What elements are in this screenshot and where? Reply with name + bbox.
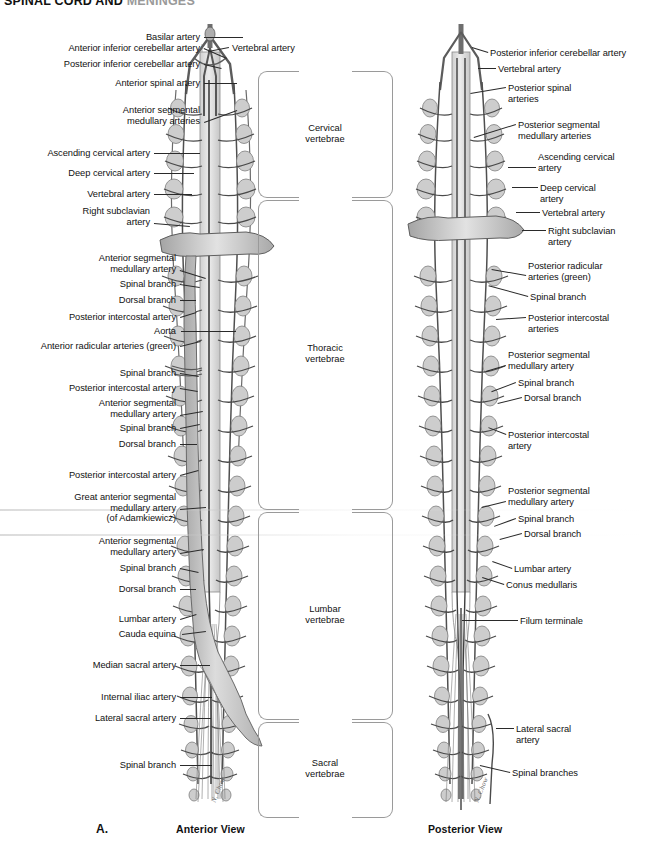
region-label-sacral: Sacral vertebrae [298,758,352,780]
label-anterior-inferior-cerebellar-artery: Anterior inferior cerebellar artery [30,43,200,54]
bracket-right-thoracic [352,200,393,510]
label-vertebral-artery-p: Vertebral artery [542,208,640,219]
label-posterior-segmental-medullary-artery-t1: Posterior segmental medullary artery [508,350,618,371]
leader-line-vertebral-artery-p [516,212,540,213]
label-lateral-sacral-artery-p: Lateral sacral artery [516,724,602,745]
label-deep-cervical-artery-p: Deep cervical artery [540,183,630,204]
region-label-lumbar: Lumbar vertebrae [298,604,352,626]
leader-line-ascending-cervical-artery [154,153,200,154]
label-anterior-segmental-medullary-artery-t2: Anterior segmental medullary artery [58,398,176,419]
label-ascending-cervical-artery-p: Ascending cervical artery [538,152,638,173]
label-deep-cervical-artery: Deep cervical artery [38,168,150,179]
leader-line-median-sacral-artery [180,665,210,666]
leader-line-aorta [181,331,236,332]
label-spinal-branch-l1: Spinal branch [90,563,176,574]
label-posterior-spinal-arteries: Posterior spinal arteries [508,83,598,104]
label-dorsal-branch-p1: Dorsal branch [524,393,612,404]
label-cauda-equina: Cauda equina [88,629,176,640]
label-anterior-segmental-medullary-artery-t1: Anterior segmental medullary artery [58,253,176,274]
label-dorsal-branch-t2: Dorsal branch [86,439,176,450]
posterior-view-caption: Posterior View [428,823,502,835]
label-posterior-intercostal-artery-p: Posterior intercostal artery [508,430,614,451]
label-spinal-branch-t2: Spinal branch [90,368,176,379]
figure-page: SPINAL CORD AND MENINGES [0,0,646,857]
label-dorsal-branch-p2: Dorsal branch [524,529,612,540]
label-posterior-radicular-arteries: Posterior radicular arteries (green) [528,261,632,282]
label-aorta: Aorta [120,326,176,337]
label-posterior-intercostal-artery-t1: Posterior intercostal artery [40,312,176,323]
label-lumbar-artery-p: Lumbar artery [514,564,602,575]
label-posterior-inferior-cerebellar-artery-p: Posterior inferior cerebellar artery [490,48,646,59]
leader-line-vertebral-artery-cervical [154,194,192,195]
anterior-view-caption: Anterior View [176,823,245,835]
label-posterior-segmental-medullary-arteries: Posterior segmental medullary arteries [518,120,626,141]
label-filum-terminale: Filum terminale [520,616,614,627]
label-spinal-branch-sacral: Spinal branch [90,760,176,771]
label-vertebral-artery-top: Vertebral artery [232,43,322,54]
bracket-right-lumbar [352,512,393,720]
bracket-right-sacral [352,722,393,818]
label-lateral-sacral-artery: Lateral sacral artery [68,713,176,724]
label-posterior-intercostal-artery-t2: Posterior intercostal artery [40,383,176,394]
leader-line-filum-terminale [462,620,518,621]
bracket-left-thoracic [258,200,299,510]
bracket-left-cervical [258,71,299,198]
label-basilar-artery: Basilar artery [70,32,200,43]
figure-letter: A. [96,822,108,836]
leader-line-deep-cervical-artery-p [512,187,538,188]
label-great-anterior-segmental-medullary-artery: Great anterior segmental medullary arter… [52,492,176,524]
running-head: SPINAL CORD AND MENINGES [4,0,195,6]
label-vertebral-artery-p-top: Vertebral artery [498,64,598,75]
label-median-sacral-artery: Median sacral artery [68,660,176,671]
region-label-thoracic: Thoracic vertebrae [298,343,352,365]
leader-line-dorsal-branch-l1 [180,589,196,590]
label-posterior-segmental-medullary-artery-l1: Posterior segmental medullary artery [508,486,618,507]
label-dorsal-branch-l1: Dorsal branch [86,584,176,595]
label-internal-iliac-artery: Internal iliac artery [72,692,176,703]
label-conus-medullaris: Conus medullaris [506,580,604,591]
leader-line-right-subclavian-artery-p [522,230,546,231]
running-head-bold: SPINAL CORD AND [4,0,127,6]
label-spinal-branch-p1: Spinal branch [530,292,616,303]
label-posterior-inferior-cerebellar-artery: Posterior inferior cerebellar artery [22,59,200,70]
leader-line-dorsal-branch-t2 [180,444,197,445]
label-ascending-cervical-artery: Ascending cervical artery [20,148,150,159]
leader-line-deep-cervical-artery [154,173,194,174]
label-anterior-radicular-arteries: Anterior radicular arteries (green) [8,341,176,352]
label-anterior-spinal-artery: Anterior spinal artery [72,78,200,89]
region-label-cervical: Cervical vertebrae [298,123,352,145]
leader-line-basilar-artery [204,37,243,38]
leader-line-lateral-sacral-artery-p [496,728,514,729]
leader-line-spinal-branch-sacral [180,765,212,766]
label-spinal-branch-p3: Spinal branch [518,514,604,525]
label-spinal-branch-t1: Spinal branch [90,279,176,290]
label-dorsal-branch-t1: Dorsal branch [86,295,176,306]
bracket-left-lumbar [258,512,299,720]
label-spinal-branch-p2: Spinal branch [518,378,604,389]
bracket-right-cervical [352,71,393,198]
leader-line-internal-iliac-artery [180,697,212,698]
label-posterior-intercostal-artery-t3: Posterior intercostal artery [40,470,176,481]
label-anterior-segmental-medullary-artery-l1: Anterior segmental medullary artery [58,536,176,557]
leader-line-ascending-cervical-artery-p [508,167,536,168]
label-vertebral-artery-cervical: Vertebral artery [55,189,150,200]
leader-line-anterior-spinal-artery [204,83,237,84]
label-posterior-intercostal-arteries: Posterior intercostal arteries [528,313,634,334]
leader-line-dorsal-branch-t1 [180,300,196,301]
label-spinal-branch-t3: Spinal branch [90,423,176,434]
running-head-faded: MENINGES [127,0,195,6]
label-right-subclavian-artery: Right subclavian artery [55,206,150,227]
leader-line-vertebral-artery-p-top [478,68,496,69]
label-right-subclavian-artery-p: Right subclavian artery [548,226,644,247]
label-lumbar-artery: Lumbar artery [88,614,176,625]
label-spinal-branches-p: Spinal branches [512,768,606,779]
bracket-left-sacral [258,722,299,818]
posterior-view-artwork [400,24,530,824]
leader-line-lateral-sacral-artery [180,718,211,719]
label-anterior-segmental-medullary-arteries: Anterior segmental medullary arteries [70,105,200,126]
